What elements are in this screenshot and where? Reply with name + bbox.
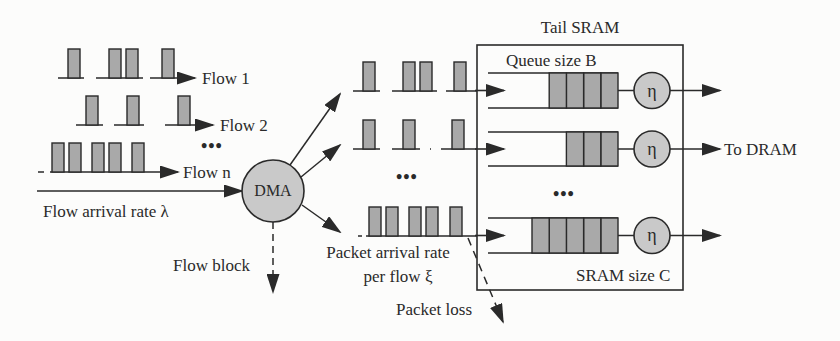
input-flow-3 — [38, 143, 178, 172]
packet-pulse — [86, 96, 98, 125]
dma-to-stream-2-arrow — [301, 145, 340, 177]
tail-sram-queueing-diagram: Flow 1 Flow 2 Flow n ••• Flow arrival ra… — [0, 0, 840, 341]
packet-pulse — [420, 62, 432, 91]
packet-arrival-rate-label: Packet arrival rate — [326, 244, 450, 261]
packet-pulse — [409, 207, 421, 236]
packet-pulse — [454, 62, 466, 91]
packet-pulse — [52, 143, 64, 172]
packet-pulse — [386, 207, 398, 236]
queued-packet-cell — [549, 73, 566, 108]
dma-to-stream-n-arrow — [302, 205, 340, 232]
queued-packet-cell — [584, 132, 601, 166]
queued-packet-cell — [566, 73, 583, 108]
packet-pulse — [68, 49, 80, 78]
flow-2-label: Flow 2 — [220, 117, 268, 134]
sram-size-label: SRAM size C — [576, 267, 670, 284]
flow-n-label: Flow n — [183, 164, 231, 181]
queued-packet-cell — [601, 218, 618, 253]
packet-pulse — [109, 49, 121, 78]
queued-packet-cell — [584, 73, 601, 108]
flow-1-label: Flow 1 — [202, 70, 250, 87]
packet-loss-dashed-arrow — [468, 238, 503, 322]
packet-pulse — [69, 143, 81, 172]
queued-packet-cell — [566, 218, 583, 253]
packet-pulse — [178, 96, 190, 125]
packet-pulse — [403, 120, 415, 149]
packet-pulse — [450, 207, 462, 236]
packet-pulse — [363, 62, 375, 91]
input-flow-1 — [58, 49, 195, 78]
diagram-graphics — [0, 0, 840, 341]
queue-2 — [488, 131, 720, 167]
packet-pulse — [109, 143, 121, 172]
packet-arrival-rate-per-flow-label: per flow ξ — [364, 268, 433, 285]
to-dram-label: To DRAM — [724, 141, 797, 158]
stream-2 — [353, 120, 504, 149]
flow-arrival-rate-label: Flow arrival rate λ — [43, 203, 169, 220]
flow-block-label: Flow block — [173, 257, 250, 274]
tail-sram-title: Tail SRAM — [541, 19, 620, 36]
queued-packet-cell — [549, 218, 566, 253]
queued-packet-cell — [584, 218, 601, 253]
packet-pulse — [403, 62, 415, 91]
more-flows-ellipsis: ••• — [201, 137, 223, 155]
queued-packet-cell — [532, 218, 549, 253]
more-streams-ellipsis: ••• — [396, 168, 418, 186]
queued-packet-cell — [566, 132, 583, 166]
packet-pulse — [369, 207, 381, 236]
packet-pulse — [92, 143, 104, 172]
server-rate-eta-2: η — [647, 140, 656, 158]
packet-pulse — [363, 120, 375, 149]
more-queues-ellipsis: ••• — [553, 185, 575, 203]
tail-sram-box — [477, 45, 720, 290]
queue-size-label: Queue size B — [506, 52, 597, 69]
server-rate-eta-1: η — [647, 82, 656, 100]
queued-packet-cell — [601, 73, 618, 108]
packet-pulse — [452, 120, 464, 149]
packet-pulse — [426, 207, 438, 236]
packet-pulse — [127, 96, 139, 125]
dma-label: DMA — [254, 183, 291, 199]
packet-loss-label: Packet loss — [396, 301, 472, 318]
queue-3 — [488, 218, 720, 254]
input-flow-2 — [76, 96, 213, 125]
dma-to-stream-1-arrow — [290, 94, 340, 165]
queued-packet-cell — [601, 132, 618, 166]
stream-1 — [353, 62, 504, 91]
queue-1 — [488, 73, 720, 109]
stream-3 — [358, 207, 504, 236]
packet-pulse — [132, 143, 144, 172]
packet-pulse — [162, 49, 174, 78]
server-rate-eta-n: η — [647, 226, 656, 244]
packet-pulse — [126, 49, 138, 78]
